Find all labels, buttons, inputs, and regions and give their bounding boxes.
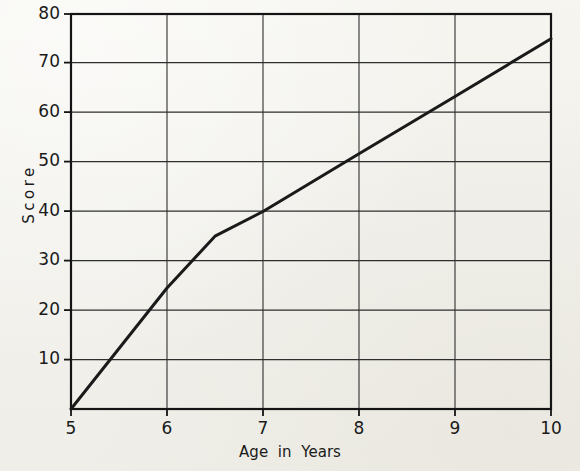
xtick-label-5: 5 (56, 418, 86, 438)
grid-lines (71, 14, 551, 409)
data-series-line (71, 39, 551, 409)
ytick-label-30: 30 (20, 249, 60, 269)
ytick-label-80: 80 (20, 3, 60, 23)
xtick-label-6: 6 (152, 418, 182, 438)
ytick-label-70: 70 (20, 51, 60, 71)
xtick-label-8: 8 (344, 418, 374, 438)
ytick-label-60: 60 (20, 101, 60, 121)
ytick-label-20: 20 (20, 299, 60, 319)
ytick-label-10: 10 (20, 348, 60, 368)
xtick-label-7: 7 (248, 418, 278, 438)
y-axis-label: Score (20, 149, 38, 239)
xtick-label-10: 10 (536, 418, 566, 438)
xtick-label-9: 9 (440, 418, 470, 438)
line-chart (0, 0, 580, 471)
chart-screenshot: 80 70 60 50 40 30 20 10 5 6 7 8 9 10 Sco… (0, 0, 580, 471)
x-axis-label: Age in Years (0, 443, 580, 461)
